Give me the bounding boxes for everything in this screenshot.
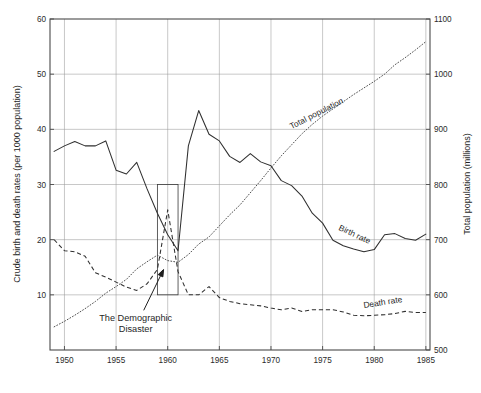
annotation-text-line1: The Demographic xyxy=(99,313,172,323)
series-label-birth-rate: Birth rate xyxy=(337,222,372,246)
y2-tick-label: 1000 xyxy=(434,70,453,79)
y-tick-label: 40 xyxy=(37,125,47,134)
y-tick-label: 60 xyxy=(37,15,47,24)
annotation-arrow-head xyxy=(158,269,163,276)
y-tick-label: 20 xyxy=(37,236,47,245)
x-tick-label: 1955 xyxy=(107,356,126,365)
x-tick-label: 1975 xyxy=(313,356,332,365)
series-label-total-population: Total population xyxy=(288,95,345,131)
x-tick-label: 1950 xyxy=(55,356,74,365)
x-tick-label: 1980 xyxy=(365,356,384,365)
chart-figure: 102030405060 50060070080090010001100 195… xyxy=(0,0,481,393)
y2-tick-label: 900 xyxy=(434,125,448,134)
x-tick-label: 1960 xyxy=(159,356,178,365)
x-tick-label: 1970 xyxy=(262,356,281,365)
x-tick-label: 1965 xyxy=(210,356,229,365)
y-axis-left-title: Crude birth and death rates (per 1000 po… xyxy=(12,85,22,283)
y2-tick-label: 500 xyxy=(434,346,448,355)
y-tick-label: 10 xyxy=(37,291,47,300)
x-tick-label: 1985 xyxy=(417,356,436,365)
y-tick-label: 50 xyxy=(37,70,47,79)
x-axis-ticks: 19501955196019651970197519801985 xyxy=(55,346,435,365)
series-label-death-rate: Death rate xyxy=(363,294,404,310)
y2-tick-label: 1100 xyxy=(434,15,452,24)
y-tick-label: 30 xyxy=(37,181,47,190)
series-total-population xyxy=(54,42,426,327)
y-axis-left-ticks: 102030405060 xyxy=(37,15,54,300)
demographic-transition-chart: 102030405060 50060070080090010001100 195… xyxy=(0,0,481,393)
series-birth-rate xyxy=(54,111,426,252)
y-axis-right-title: Total population (millions) xyxy=(462,133,472,235)
annotation-arrow-line xyxy=(144,274,162,310)
y2-tick-label: 800 xyxy=(434,181,448,190)
annotation-text-line2: Disaster xyxy=(119,324,153,334)
y2-tick-label: 700 xyxy=(434,236,448,245)
y2-tick-label: 600 xyxy=(434,291,448,300)
